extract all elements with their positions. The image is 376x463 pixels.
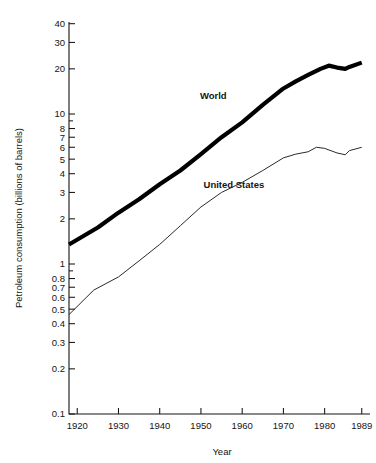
x-tick-label: 1989 [351, 420, 372, 431]
x-tick-label: 1950 [190, 420, 211, 431]
series-annotation: World [200, 90, 227, 101]
petroleum-consumption-chart: 0.10.20.30.40.50.60.70.81234567810203040… [0, 0, 376, 463]
y-tick-label: 0.2 [52, 363, 65, 374]
x-tick-label: 1930 [108, 420, 129, 431]
series-annotation: United States [204, 179, 265, 190]
y-tick-label: 1 [60, 258, 65, 269]
x-tick-label: 1970 [273, 420, 294, 431]
x-tick-label: 1960 [232, 420, 253, 431]
y-tick-label: 6 [60, 142, 65, 153]
y-tick-label: 0.6 [52, 292, 65, 303]
chart-figure: 0.10.20.30.40.50.60.70.81234567810203040… [0, 0, 376, 463]
y-axis-ticks: 0.10.20.30.40.50.60.70.81234567810203040 [52, 18, 75, 419]
y-tick-label: 40 [54, 18, 65, 29]
x-axis-ticks: 19201930194019501960197019801989 [67, 408, 373, 431]
x-tick-label: 1940 [149, 420, 170, 431]
x-axis-title: Year [212, 446, 231, 457]
y-tick-label: 0.8 [52, 273, 65, 284]
y-tick-label: 4 [60, 168, 65, 179]
y-tick-label: 20 [54, 63, 65, 74]
y-tick-label: 0.4 [52, 318, 65, 329]
y-axis-title: Petroleum consumption (billions of barre… [13, 128, 24, 308]
y-tick-label: 0.1 [52, 408, 65, 419]
y-tick-label: 0.3 [52, 337, 65, 348]
x-tick-label: 1980 [314, 420, 335, 431]
series-line-united-states [69, 147, 362, 314]
y-tick-label: 10 [54, 108, 65, 119]
y-tick-label: 0.5 [52, 304, 65, 315]
y-tick-label: 3 [60, 187, 65, 198]
y-tick-label: 5 [60, 154, 65, 165]
y-tick-label: 8 [60, 123, 65, 134]
x-tick-label: 1920 [67, 420, 88, 431]
y-tick-label: 2 [60, 213, 65, 224]
y-tick-label: 30 [54, 37, 65, 48]
